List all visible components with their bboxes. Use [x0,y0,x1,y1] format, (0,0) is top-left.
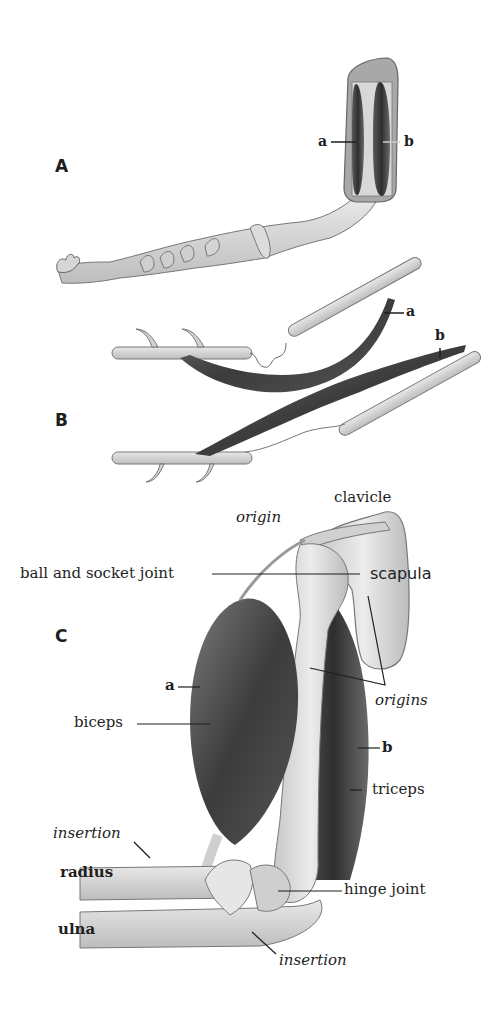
anatomy-illustration [0,0,498,1012]
label-clavicle: clavicle [334,490,392,505]
label-origin: origin [236,510,281,525]
panel-label-c: C [55,628,67,645]
leader-insertion-top [134,842,150,858]
label-insertion-top: insertion [53,826,121,841]
label-triceps: triceps [372,782,425,797]
label-b: b [382,740,393,755]
panel-b-muscles [112,255,483,482]
panel-label-a: A [55,158,68,175]
label-insertion-bottom: insertion [279,953,347,968]
label-origins: origins [375,693,428,708]
label-ulna: ulna [58,922,95,937]
label-biceps: biceps [74,715,123,730]
panel-a-label-a: a [318,134,327,148]
panel-label-b: B [55,412,68,429]
label-scapula: scapula [370,566,431,582]
label-a: a [165,678,175,693]
panel-b-label-b: b [435,328,445,342]
label-radius: radius [60,865,113,880]
panel-a-label-b: b [404,134,414,148]
panel-b-label-a: a [406,304,415,318]
label-hinge-joint: hinge joint [344,882,426,897]
panel-a-limb [57,58,398,283]
label-ball-and-socket-joint: ball and socket joint [20,566,174,581]
